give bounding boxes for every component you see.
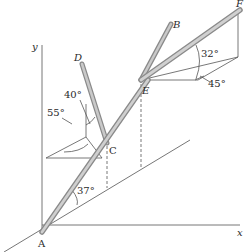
construction-line xyxy=(46,137,86,158)
leader-line-40 xyxy=(80,100,90,124)
angle-label-55: 55° xyxy=(47,107,65,118)
rod-EF-highlight xyxy=(141,10,240,80)
angle-arc-55 xyxy=(64,144,88,152)
angle-label-40: 40° xyxy=(64,89,82,100)
construction-line xyxy=(198,57,238,80)
point-label-C: C xyxy=(109,145,117,156)
leader-line-55 xyxy=(62,118,72,124)
angle-label-37: 37° xyxy=(77,185,95,196)
point-label-B: B xyxy=(172,19,180,30)
point-label-A: A xyxy=(37,238,46,249)
y-axis-label: y xyxy=(31,41,38,52)
x-axis-label: x xyxy=(237,227,243,238)
point-label-F: F xyxy=(235,0,244,9)
angle-label-32: 32° xyxy=(201,48,219,59)
angle-label-45: 45° xyxy=(208,78,226,89)
point-label-D: D xyxy=(73,52,82,63)
statics-diagram: y x 37° 40° 55° 32° 45° A B C D E F xyxy=(0,0,247,252)
point-label-E: E xyxy=(141,85,150,96)
angle-arc-32 xyxy=(196,45,200,79)
